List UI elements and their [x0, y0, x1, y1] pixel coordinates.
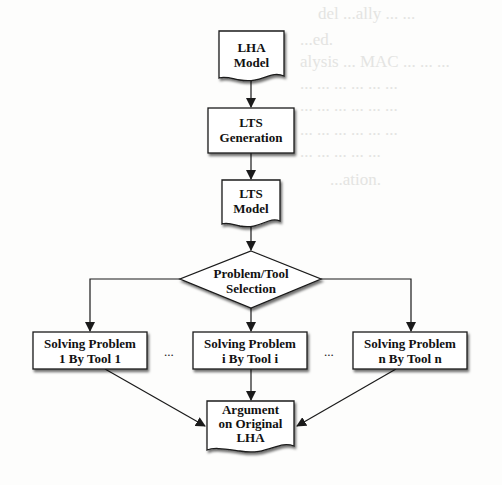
- label-line: Problem/Tool: [196, 266, 306, 281]
- label-line: n By Tool n: [353, 351, 467, 366]
- label-line: LHA: [219, 40, 284, 55]
- node-argument-label: Argument on Original LHA: [207, 403, 294, 445]
- label-line: 1 By Tool 1: [33, 351, 147, 366]
- edge-solven-to-argument: [297, 369, 396, 426]
- node-lts-model-label: LTS Model: [222, 186, 280, 216]
- label-line: LTS: [208, 115, 294, 130]
- label-line: Model: [219, 55, 284, 70]
- label-line: LTS: [222, 186, 280, 201]
- label-line: Selection: [196, 281, 306, 296]
- label-line: Model: [222, 201, 280, 216]
- edge-decision-to-solven: [321, 279, 411, 331]
- label-line: LHA: [207, 431, 294, 445]
- label-line: Solving Problem: [353, 336, 467, 351]
- label-line: i By Tool i: [193, 351, 307, 366]
- node-lha-model-label: LHA Model: [219, 40, 284, 70]
- node-problem-tool-selection-label: Problem/Tool Selection: [196, 266, 306, 296]
- edge-decision-to-solve1: [90, 279, 180, 331]
- label-line: Solving Problem: [33, 336, 147, 351]
- label-line: on Original: [207, 417, 294, 431]
- label-line: Argument: [207, 403, 294, 417]
- node-solve-i-label: Solving Problem i By Tool i: [193, 336, 307, 366]
- node-solve-n-label: Solving Problem n By Tool n: [353, 336, 467, 366]
- edge-solve1-to-argument: [105, 369, 205, 426]
- node-solve-1-label: Solving Problem 1 By Tool 1: [33, 336, 147, 366]
- ellipsis-left: ...: [164, 344, 174, 360]
- node-lts-generation-label: LTS Generation: [208, 115, 294, 145]
- label-line: Solving Problem: [193, 336, 307, 351]
- label-line: Generation: [208, 130, 294, 145]
- ellipsis-right: ...: [324, 344, 334, 360]
